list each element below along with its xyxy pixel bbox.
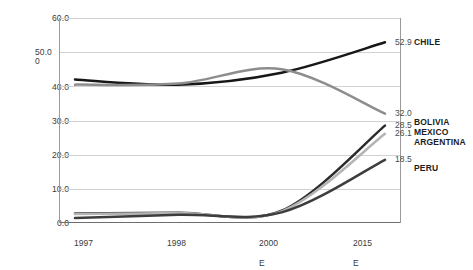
legend-label-mexico: MEXICO <box>414 128 450 138</box>
value-label-bolivia: 32.0 <box>395 109 412 118</box>
y-tick-50-line2: 0 <box>35 57 52 66</box>
x-tick-2015e-line2: E <box>353 258 372 268</box>
series-line-argentina <box>75 134 385 218</box>
value-label-peru: 18.5 <box>395 155 412 164</box>
series-line-chile <box>75 42 385 85</box>
x-tick-2015e-line1: 2015 <box>353 238 372 248</box>
series-line-mexico <box>75 126 385 218</box>
legend-item-chile: CHILE <box>414 38 440 48</box>
legend-label-chile: CHILE <box>414 38 440 48</box>
legend-item-argentina: ARGENTINA <box>414 138 466 148</box>
x-tick-2000e-line2: E <box>259 258 278 268</box>
chart-lines <box>59 18 401 223</box>
y-tick-50: 50.0 0 <box>22 48 52 66</box>
x-tick-1998-line1: 1998 <box>167 238 186 248</box>
legend-item-bolivia-mexico: BOLIVIA MEXICO <box>414 118 450 137</box>
x-tick-2015e: 2015 E <box>353 228 372 270</box>
x-tick-2000e-line1: 2000 <box>259 238 278 248</box>
legend-label-peru: PERU <box>414 164 438 174</box>
x-tick-1998: 1998 <box>167 228 186 268</box>
legend-label-argentina: ARGENTINA <box>414 138 466 148</box>
x-tick-1997: 1997 <box>74 228 93 268</box>
legend-item-peru: PERU <box>414 164 438 174</box>
value-label-chile: 52.9 <box>395 38 412 47</box>
x-tick-1997-line1: 1997 <box>74 238 93 248</box>
value-label-argentina: 26.1 <box>395 129 412 138</box>
series-line-bolivia <box>75 68 385 113</box>
x-tick-2000e: 2000 E <box>259 228 278 270</box>
